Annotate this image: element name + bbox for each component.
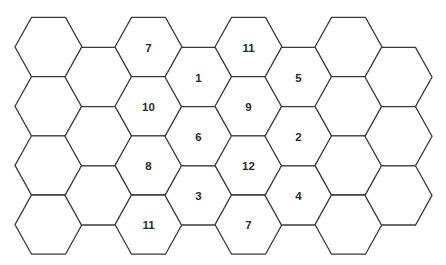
hex-number-token: 11 <box>142 219 155 231</box>
hex-number-token: 6 <box>195 131 201 143</box>
hex-number-token: 1 <box>195 72 202 84</box>
hex-number-token: 8 <box>145 160 152 172</box>
hex-number-token: 9 <box>245 101 251 113</box>
hex-tile-layer: 710811163119127524 <box>15 17 432 254</box>
hex-number-token: 4 <box>295 190 302 202</box>
hex-number-token: 11 <box>242 42 255 54</box>
hex-number-token: 3 <box>195 190 201 202</box>
hex-number-token: 5 <box>295 72 302 84</box>
hex-board: 710811163119127524 <box>0 0 446 265</box>
hex-number-token: 10 <box>142 101 155 113</box>
hex-number-token: 7 <box>145 42 151 54</box>
hex-number-token: 12 <box>242 160 255 172</box>
hex-number-token: 7 <box>245 219 251 231</box>
hex-number-token: 2 <box>295 131 301 143</box>
